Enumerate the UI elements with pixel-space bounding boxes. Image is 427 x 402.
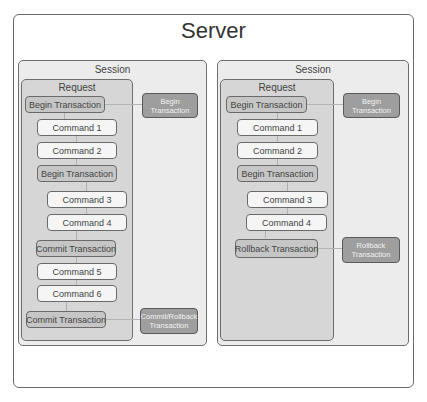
session-left-title: Session xyxy=(18,64,207,75)
request-right-title: Request xyxy=(220,82,334,93)
request-left-title: Request xyxy=(21,82,133,93)
step-command-2: Command 2 xyxy=(237,142,318,159)
step-command-3: Command 3 xyxy=(247,191,328,208)
server-title: Server xyxy=(13,18,414,44)
step-command-1: Command 1 xyxy=(237,119,318,136)
external-label-line1: Rollback xyxy=(352,241,391,250)
external-rollback-transaction: RollbackTransaction xyxy=(342,237,400,263)
connector-line xyxy=(76,256,77,263)
connector-line xyxy=(76,135,77,142)
session-right-title: Session xyxy=(217,64,409,75)
step-command-6: Command 6 xyxy=(37,285,117,302)
step-command-1: Command 1 xyxy=(37,119,117,136)
connector-line xyxy=(265,230,266,238)
step-rollback-transaction: Rollback Transaction xyxy=(235,239,318,258)
connector-line xyxy=(287,181,288,191)
connector-line xyxy=(287,207,288,214)
step-commit-transaction-nested: Commit Transaction xyxy=(36,240,116,257)
external-label-line1: Commit/Rollback xyxy=(141,312,198,321)
connector-line xyxy=(277,158,278,165)
step-command-2: Command 2 xyxy=(37,142,117,159)
link-line xyxy=(105,319,140,320)
step-commit-transaction: Commit Transaction xyxy=(26,311,106,328)
connector-line xyxy=(86,181,87,191)
external-label-line2: Transaction xyxy=(151,106,190,115)
step-begin-transaction-nested: Begin Transaction xyxy=(237,165,318,182)
connector-line xyxy=(86,207,87,214)
step-command-4: Command 4 xyxy=(47,214,127,231)
connector-line xyxy=(66,301,67,311)
external-label-line1: Begin xyxy=(352,97,391,106)
link-line xyxy=(306,104,343,105)
connector-line xyxy=(76,230,77,240)
step-begin-transaction: Begin Transaction xyxy=(25,96,105,113)
external-begin-transaction: BeginTransaction xyxy=(142,93,198,118)
external-label-line1: Begin xyxy=(151,97,190,106)
external-label-line2: Transaction xyxy=(141,321,198,330)
link-line xyxy=(318,248,343,249)
step-command-4: Command 4 xyxy=(246,214,327,231)
step-command-5: Command 5 xyxy=(37,263,117,280)
step-begin-transaction-nested: Begin Transaction xyxy=(37,165,117,182)
connector-line xyxy=(277,135,278,142)
external-commit-rollback-transaction: Commit/RollbackTransaction xyxy=(140,308,198,334)
link-line xyxy=(104,104,142,105)
external-label-line2: Transaction xyxy=(352,250,391,259)
external-begin-transaction: BeginTransaction xyxy=(343,93,400,118)
external-label-line2: Transaction xyxy=(352,106,391,115)
step-begin-transaction: Begin Transaction xyxy=(226,96,307,113)
connector-line xyxy=(76,158,77,165)
step-command-3: Command 3 xyxy=(47,191,127,208)
